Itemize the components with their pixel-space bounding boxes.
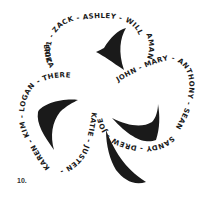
names-left-bottom: KAREN - KIM - LOGAN - [0, 0, 51, 172]
left-swoosh-icon [38, 100, 78, 150]
right-swoosh-icon [112, 104, 159, 141]
top-swoosh-icon [96, 28, 126, 70]
names-left-leaf: - THERESE - [0, 0, 71, 86]
names-top-right: AMANDA [0, 0, 155, 60]
shamrock-name-art: 2001 - ZACK - ASHLEY - WILL - AMANDA JOH… [0, 0, 199, 205]
names-stem: KATIE - JUSTEN - [59, 112, 98, 176]
names-left-top: ERIKA [42, 44, 56, 70]
figure-number: 10. [17, 177, 27, 184]
